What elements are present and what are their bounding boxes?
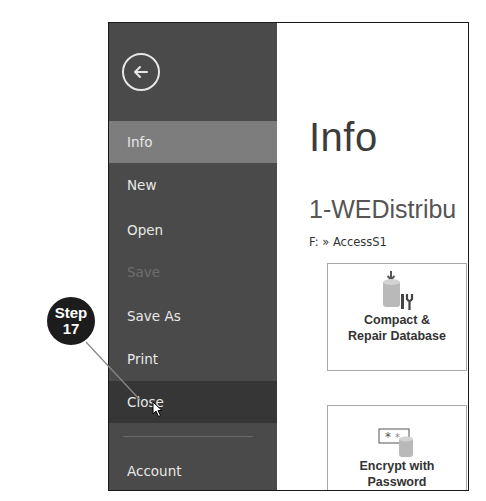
sidebar-item-label: Open [127, 222, 163, 238]
sidebar-item-save[interactable]: Save [109, 251, 277, 293]
back-button[interactable] [122, 53, 160, 91]
sidebar-item-new[interactable]: New [109, 164, 277, 206]
arrow-left-icon [131, 62, 151, 82]
page-title: Info [309, 115, 378, 160]
sidebar-item-print[interactable]: Print [109, 338, 277, 380]
compact-repair-button[interactable]: Compact & Repair Database [327, 263, 467, 371]
sidebar-item-label: Save As [127, 308, 181, 324]
sidebar-item-label: Info [127, 134, 153, 150]
document-path: F: » AccessS1 [309, 235, 387, 249]
backstage-sidebar: Info New Open Save Save As Print Close A… [109, 23, 277, 490]
sidebar-item-label: Account [127, 463, 182, 479]
sidebar-item-label: New [127, 177, 156, 193]
sidebar-item-info[interactable]: Info [109, 121, 277, 163]
step-callout-badge: Step 17 [47, 297, 95, 345]
tile-label: Compact & Repair Database [348, 312, 446, 344]
sidebar-item-account[interactable]: Account [109, 450, 277, 491]
svg-text:*: * [385, 430, 391, 444]
document-name: 1-WEDistribu [309, 195, 456, 224]
mouse-cursor-icon [152, 401, 164, 418]
encrypt-password-button[interactable]: * * Encrypt with Password [327, 405, 467, 491]
backstage-window: Info New Open Save Save As Print Close A… [108, 22, 469, 491]
info-panel: Info 1-WEDistribu F: » AccessS1 Compact … [277, 23, 468, 490]
sidebar-item-save-as[interactable]: Save As [109, 295, 277, 337]
sidebar-item-close[interactable]: Close [109, 381, 277, 423]
sidebar-item-label: Print [127, 351, 158, 367]
compact-repair-database-icon [377, 270, 417, 312]
sidebar-item-open[interactable]: Open [109, 209, 277, 251]
sidebar-item-label: Save [127, 264, 160, 280]
encrypt-password-icon: * * [375, 426, 419, 458]
sidebar-separator [123, 436, 253, 437]
tile-label: Encrypt with Password [359, 458, 434, 490]
